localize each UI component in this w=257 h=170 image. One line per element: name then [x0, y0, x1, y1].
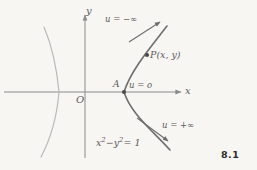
figure-8-1-container: y x O A P(x, y) u = −∞ u = o u = +∞ x2−y… — [0, 0, 257, 170]
curve-equation-label: x2−y2= 1 — [96, 137, 140, 148]
figure-number: 8.1 — [221, 149, 239, 160]
equation-minus: − — [106, 137, 114, 148]
y-axis-label: y — [86, 6, 92, 16]
point-p-dot — [145, 53, 149, 57]
u-zero-label: u = o — [129, 81, 152, 90]
equation-equals: = 1 — [123, 137, 140, 148]
origin-label: O — [76, 95, 84, 105]
vertex-a-dot — [122, 90, 126, 94]
point-p-label: P(x, y) — [150, 50, 181, 60]
u-negative-infinity-label: u = −∞ — [105, 15, 137, 24]
x-axis-label: x — [185, 86, 191, 96]
u-positive-infinity-label: u = +∞ — [162, 121, 194, 130]
upper-direction-arrow — [129, 22, 160, 42]
vertex-a-label: A — [113, 80, 120, 89]
